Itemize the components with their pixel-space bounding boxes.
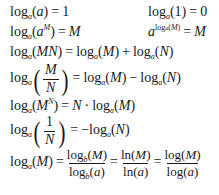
identity-reciprocal-rule: loga(1N)=−loga(N) xyxy=(10,115,130,147)
denominator: N xyxy=(44,80,57,96)
log-function: log xyxy=(83,70,101,85)
log-function: log xyxy=(67,147,84,162)
paren: ) xyxy=(146,147,150,162)
equals-sign: = xyxy=(58,98,72,113)
variable-n: N xyxy=(72,98,81,113)
paren: ) xyxy=(125,122,130,137)
identity-log-of-one: loga(1)=0 xyxy=(148,5,207,19)
value-zero: 0 xyxy=(200,4,207,19)
equals-sign: = xyxy=(62,44,76,59)
equals-sign: = xyxy=(151,154,165,169)
log-function: log xyxy=(164,147,181,162)
log-function: log xyxy=(10,24,28,39)
log-function: log xyxy=(10,154,28,169)
identity-power-rule: loga(MN)=N·loga(M) xyxy=(10,99,135,113)
equals-sign: = xyxy=(186,4,200,19)
fraction-one-over-n: 1N xyxy=(43,115,56,147)
variable-m: M xyxy=(69,24,81,39)
variable-m: M xyxy=(194,24,206,39)
equals-sign: = xyxy=(107,154,121,169)
log-function: log xyxy=(10,98,28,113)
ln-function: ln xyxy=(121,147,131,162)
log-function: log xyxy=(92,98,110,113)
variable-n: N xyxy=(116,122,125,137)
variable-n: N xyxy=(160,44,169,59)
paren: ) xyxy=(196,147,200,162)
identity-log-of-power-base: loga(aM)=M xyxy=(10,25,80,39)
variable-m: M xyxy=(92,147,103,162)
denominator: logb(a) xyxy=(69,163,105,179)
numerator: ln(M) xyxy=(121,148,151,163)
base-a: a xyxy=(28,78,32,87)
negative-sign: − xyxy=(81,122,89,137)
numerator: logb(M) xyxy=(67,148,107,163)
big-paren: ( xyxy=(33,118,40,145)
denominator: N xyxy=(43,132,56,148)
identity-quotient-rule: loga(MN)=loga(M)−loga(N) xyxy=(10,63,181,95)
value-one: 1 xyxy=(175,4,182,19)
log-function: log xyxy=(155,23,165,32)
log-function: log xyxy=(140,70,158,85)
variable-mn: MN xyxy=(37,44,58,59)
equals-sign: = xyxy=(55,24,69,39)
log-function: log xyxy=(89,122,107,137)
variable-m: M xyxy=(185,147,196,162)
numerator: M xyxy=(43,63,59,80)
fraction-ln: ln(M)ln(a) xyxy=(121,148,151,178)
dot-operator: · xyxy=(82,98,93,113)
equals-sign: = xyxy=(180,24,194,39)
big-paren: ( xyxy=(33,66,40,93)
value-one: 1 xyxy=(62,4,69,19)
variable-a: a xyxy=(37,4,44,19)
minus-sign: − xyxy=(126,70,140,85)
equals-sign: = xyxy=(48,4,62,19)
log-function: log xyxy=(10,122,28,137)
variable-m: M xyxy=(37,98,49,113)
paren: ) xyxy=(144,164,148,179)
numerator: log(M) xyxy=(164,148,200,163)
variable-m: M xyxy=(119,98,131,113)
paren: ) xyxy=(176,70,181,85)
variable-m: M xyxy=(135,147,146,162)
variable-m: M xyxy=(37,154,49,169)
log-function: log xyxy=(10,4,28,19)
log-function: log xyxy=(10,70,28,85)
identity-log-base-itself: loga(a)=1 xyxy=(10,5,69,19)
variable-m: M xyxy=(171,23,178,32)
variable-m: M xyxy=(103,44,115,59)
equals-sign: = xyxy=(67,122,81,137)
log-function: log xyxy=(10,44,28,59)
fraction-m-over-n: MN xyxy=(43,63,59,95)
identity-product-rule: loga(MN)=loga(M)+loga(N) xyxy=(10,45,174,59)
exponent-log: loga(M) xyxy=(155,23,180,32)
log-function: log xyxy=(167,164,184,179)
paren: ) xyxy=(169,44,174,59)
log-function: log xyxy=(148,4,166,19)
variable-a: a xyxy=(37,24,44,39)
big-paren: ) xyxy=(59,118,66,145)
base-a: a xyxy=(28,130,32,139)
numerator: 1 xyxy=(44,115,55,132)
ln-function: ln xyxy=(123,164,133,179)
log-function: log xyxy=(69,164,86,179)
identity-exp-of-log: aloga(M)=M xyxy=(148,25,206,39)
equals-sign: = xyxy=(53,154,67,169)
identity-change-of-base: loga(M)=logb(M)logb(a)=ln(M)ln(a)=log(M)… xyxy=(10,148,201,178)
variable-a: a xyxy=(148,24,155,39)
denominator: ln(a) xyxy=(123,163,148,179)
paren: ) xyxy=(130,98,135,113)
fraction-logb: logb(M)logb(a) xyxy=(67,148,107,178)
equals-sign: = xyxy=(70,70,84,85)
plus-sign: + xyxy=(119,44,133,59)
fraction-log: log(M)log(a) xyxy=(164,148,200,178)
paren: ) xyxy=(100,164,104,179)
big-paren: ) xyxy=(61,66,68,93)
paren: ) xyxy=(194,164,198,179)
denominator: log(a) xyxy=(167,163,199,179)
log-function: log xyxy=(133,44,151,59)
variable-m: M xyxy=(110,70,122,85)
log-function: log xyxy=(76,44,94,59)
variable-n: N xyxy=(167,70,176,85)
